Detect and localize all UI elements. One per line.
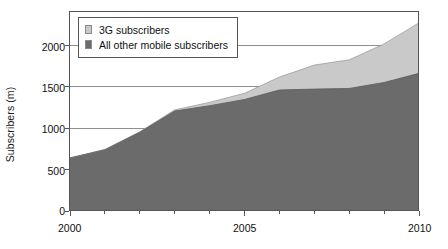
y-tick-label-2000: 2000 xyxy=(31,41,65,53)
x-tick-label-2000: 2000 xyxy=(58,222,81,234)
legend-swatch-all-other-mobile-subscribers xyxy=(85,40,92,49)
legend-label-all-other-mobile-subscribers: All other mobile subscribers xyxy=(99,39,228,51)
y-tick-label-1500: 1500 xyxy=(31,82,65,94)
legend-item-3g-subscribers: 3G subscribers xyxy=(85,22,228,37)
chart-figure: Subscribers (m) 2000 1500 1000 500 0 200… xyxy=(0,0,448,249)
legend: 3G subscribers All other mobile subscrib… xyxy=(78,17,238,58)
legend-item-all-other-mobile-subscribers: All other mobile subscribers xyxy=(85,37,228,52)
y-axis-title-label: Subscribers (m) xyxy=(4,87,16,163)
legend-label-3g-subscribers: 3G subscribers xyxy=(99,24,170,36)
x-tick-label-2010: 2010 xyxy=(408,222,431,234)
y-tick-label-0: 0 xyxy=(31,205,65,217)
y-tick-label-1000: 1000 xyxy=(31,123,65,135)
y-tick-label-500: 500 xyxy=(31,165,65,177)
x-tick-label-2005: 2005 xyxy=(233,222,256,234)
legend-swatch-3g-subscribers xyxy=(85,25,92,34)
